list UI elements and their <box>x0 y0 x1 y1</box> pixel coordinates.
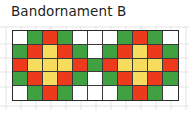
ornament-cell-red-r3-c1 <box>13 59 28 73</box>
ornament-cell-red-r4-c4 <box>58 72 73 86</box>
ornament-cell-red-r4-c10 <box>148 72 163 86</box>
ornament-cell-red-r1-c9 <box>133 31 148 45</box>
figure-title: Bandornament B <box>11 3 126 19</box>
ornament-cell-green-r5-c10 <box>148 86 163 100</box>
ornament-cell-green-r5-c2 <box>28 86 43 100</box>
ornament-cell-red-r2-c4 <box>58 45 73 59</box>
ornament-cell-green-r5-c8 <box>118 86 133 100</box>
ornament-cell-yellow-r2-c9 <box>133 45 148 59</box>
ornament-cell-green-r1-c4 <box>58 31 73 45</box>
ornament-cell-white-r2-c6 <box>88 45 103 59</box>
ornament-cell-yellow-r3-c9 <box>133 59 148 73</box>
ornament-cell-yellow-r2-c3 <box>43 45 58 59</box>
ornament-cell-white-r1-c1 <box>13 31 28 45</box>
ornament-cell-white-r1-c11 <box>163 31 178 45</box>
ornament-cell-green-r2-c7 <box>103 45 118 59</box>
ornament-cell-yellow-r4-c9 <box>133 72 148 86</box>
ornament-cell-red-r5-c3 <box>43 86 58 100</box>
ornament-cell-green-r1-c10 <box>148 31 163 45</box>
ornament-cell-green-r2-c1 <box>13 45 28 59</box>
ornament-cell-white-r1-c6 <box>88 31 103 45</box>
bandornament-figure: Bandornament B <box>0 0 189 116</box>
ornament-cell-green-r1-c2 <box>28 31 43 45</box>
ornament-cell-green-r5-c4 <box>58 86 73 100</box>
ornament-cell-white-r1-c7 <box>103 31 118 45</box>
ornament-cell-white-r5-c1 <box>13 86 28 100</box>
ornament-cell-red-r2-c2 <box>28 45 43 59</box>
ornament-grid-container <box>0 26 189 110</box>
ornament-cell-yellow-r3-c10 <box>148 59 163 73</box>
ornament-grid <box>12 30 179 101</box>
ornament-cell-red-r1-c3 <box>43 31 58 45</box>
ornament-cell-yellow-r3-c8 <box>118 59 133 73</box>
ornament-cell-green-r4-c7 <box>103 72 118 86</box>
ornament-cell-red-r3-c5 <box>73 59 88 73</box>
ornament-cell-green-r4-c5 <box>73 72 88 86</box>
ornament-cell-red-r2-c10 <box>148 45 163 59</box>
ornament-cell-red-r3-c11 <box>163 59 178 73</box>
ornament-cell-yellow-r3-c4 <box>58 59 73 73</box>
ornament-cell-yellow-r3-c3 <box>43 59 58 73</box>
ornament-cell-red-r4-c8 <box>118 72 133 86</box>
ornament-cell-yellow-r3-c2 <box>28 59 43 73</box>
ornament-cell-green-r2-c11 <box>163 45 178 59</box>
ornament-cell-white-r5-c7 <box>103 86 118 100</box>
ornament-cell-red-r4-c2 <box>28 72 43 86</box>
ornament-cell-red-r2-c8 <box>118 45 133 59</box>
ornament-cell-white-r5-c11 <box>163 86 178 100</box>
ornament-cell-white-r5-c5 <box>73 86 88 100</box>
ornament-cell-green-r2-c5 <box>73 45 88 59</box>
ornament-cell-white-r5-c6 <box>88 86 103 100</box>
ornament-cell-red-r5-c9 <box>133 86 148 100</box>
ornament-cell-green-r4-c11 <box>163 72 178 86</box>
ornament-cell-yellow-r4-c3 <box>43 72 58 86</box>
ornament-cell-green-r1-c8 <box>118 31 133 45</box>
ornament-cell-white-r1-c5 <box>73 31 88 45</box>
ornament-cell-white-r4-c6 <box>88 72 103 86</box>
ornament-cell-green-r3-c6 <box>88 59 103 73</box>
ornament-cell-red-r3-c7 <box>103 59 118 73</box>
ornament-cell-green-r4-c1 <box>13 72 28 86</box>
